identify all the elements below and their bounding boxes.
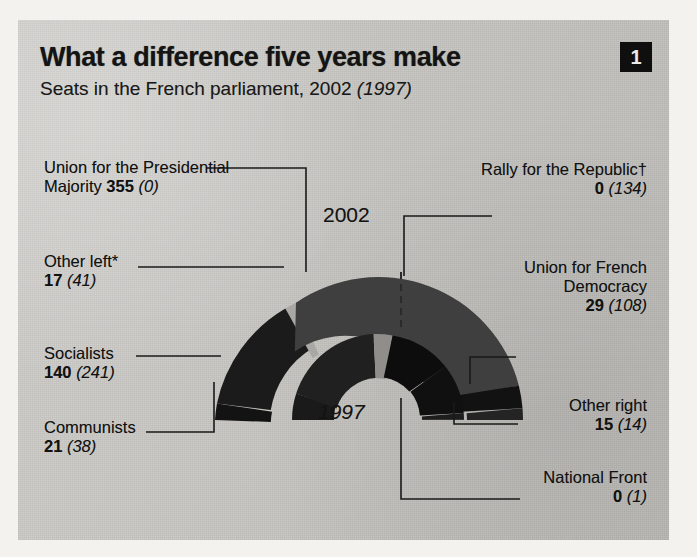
inner-ring-caption: 1997 — [318, 400, 365, 424]
label-other-right-name: Other right — [569, 396, 647, 414]
label-other-right: Other right 15 (14) — [457, 396, 647, 434]
label-udf: Union for French Democracy 29 (108) — [457, 258, 647, 315]
label-ump: Union for the Presidential Majority 355 … — [44, 158, 244, 196]
label-ump-name: Union for the Presidential Majority — [44, 158, 229, 195]
label-socialists-name: Socialists — [44, 344, 114, 362]
label-socialists: Socialists 140 (241) — [44, 344, 244, 382]
label-udf-name: Union for French Democracy — [524, 258, 647, 295]
label-communists-prev: (38) — [67, 437, 96, 455]
label-national-front: National Front 0 (1) — [437, 468, 647, 506]
label-rpr-prev: (134) — [608, 179, 647, 197]
infographic-root: What a difference five years make Seats … — [0, 0, 697, 557]
label-other-left-name: Other left* — [44, 252, 118, 270]
label-udf-value: 29 — [586, 296, 604, 314]
label-socialists-value: 140 — [44, 363, 72, 381]
label-national-front-name: National Front — [543, 468, 647, 486]
label-other-left-prev: (41) — [67, 271, 96, 289]
label-other-left-value: 17 — [44, 271, 62, 289]
label-other-right-value: 15 — [595, 415, 613, 433]
label-ump-prev: (0) — [138, 177, 158, 195]
label-udf-prev: (108) — [608, 296, 647, 314]
outer-ring-caption: 2002 — [323, 203, 370, 227]
label-ump-value: 355 — [106, 177, 134, 195]
label-communists: Communists 21 (38) — [44, 418, 244, 456]
label-socialists-prev: (241) — [76, 363, 115, 381]
label-national-front-value: 0 — [613, 487, 622, 505]
label-national-front-prev: (1) — [627, 487, 647, 505]
label-rpr: Rally for the Republic† 0 (134) — [457, 160, 647, 198]
label-rpr-name: Rally for the Republic† — [481, 160, 647, 178]
label-communists-name: Communists — [44, 418, 136, 436]
label-communists-value: 21 — [44, 437, 62, 455]
label-other-left: Other left* 17 (41) — [44, 252, 244, 290]
label-other-right-prev: (14) — [618, 415, 647, 433]
label-rpr-value: 0 — [595, 179, 604, 197]
chart-panel: What a difference five years make Seats … — [18, 20, 669, 540]
